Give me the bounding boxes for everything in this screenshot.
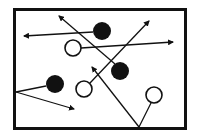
diagram-canvas	[0, 0, 197, 136]
line-bottom-to-open-right-line	[139, 103, 151, 127]
arrow-top-left-arrow	[24, 32, 93, 36]
open-right-circle	[146, 87, 162, 103]
arrow-left-lower-arrow	[16, 92, 74, 109]
open-top-circle	[65, 40, 81, 56]
filled-top-circle	[93, 22, 111, 40]
filled-middle-circle	[111, 62, 129, 80]
diagram-svg	[0, 0, 197, 136]
open-lower-middle-circle	[76, 81, 92, 97]
filled-left-circle	[46, 75, 64, 93]
arrow-diagonal-upleft-arrow	[59, 16, 115, 64]
line-left-to-filled-line	[16, 86, 46, 92]
